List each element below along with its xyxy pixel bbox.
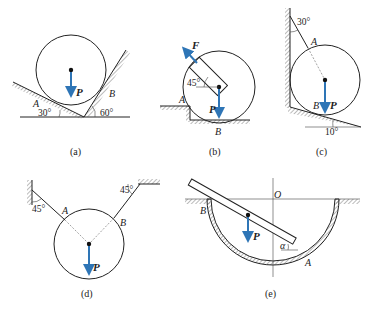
label-A: A bbox=[61, 205, 69, 216]
label-alpha: α bbox=[280, 240, 286, 251]
incline-surface bbox=[290, 107, 361, 127]
center-dot bbox=[69, 68, 73, 72]
ground-left-hatch bbox=[185, 199, 210, 204]
caption-e: (e) bbox=[265, 288, 276, 300]
force-F-arrow bbox=[186, 51, 197, 63]
label-P: P bbox=[93, 261, 100, 273]
right-rope-dashed bbox=[89, 218, 114, 244]
ceiling-hatch bbox=[138, 179, 160, 184]
angle-label-60: 60° bbox=[100, 108, 114, 118]
label-P: P bbox=[76, 86, 83, 98]
caption-c: (c) bbox=[316, 146, 327, 158]
label-P: P bbox=[253, 230, 260, 242]
angle-arc-30 bbox=[59, 110, 60, 117]
center-dot bbox=[323, 78, 327, 82]
angle-arc-30 bbox=[290, 30, 298, 32]
step-riser-hatch bbox=[186, 106, 190, 122]
panel-c: 30° A B P 10° (c) bbox=[285, 8, 361, 158]
angle-label-45: 45° bbox=[187, 78, 201, 88]
handle-bar bbox=[189, 57, 227, 95]
right-incline-hatch bbox=[84, 50, 130, 117]
left-rope-dashed bbox=[65, 220, 89, 244]
label-B: B bbox=[215, 126, 221, 137]
center-of-mass-dot bbox=[246, 213, 250, 217]
angle-label-10: 10° bbox=[325, 127, 339, 137]
label-B: B bbox=[200, 205, 206, 216]
label-B: B bbox=[313, 100, 319, 111]
caption-a: (a) bbox=[70, 146, 81, 158]
label-F: F bbox=[191, 39, 200, 51]
label-A: A bbox=[310, 36, 318, 47]
panel-a: P A B 30° 60° (a) bbox=[12, 35, 130, 158]
panel-d: 45° 45° A B P (d) bbox=[27, 179, 160, 300]
center-dot bbox=[87, 242, 91, 246]
angle-label-30: 30° bbox=[297, 17, 311, 27]
left-wall-hatch bbox=[27, 180, 32, 205]
rope-dashed bbox=[308, 48, 325, 80]
caption-d: (d) bbox=[81, 288, 93, 300]
label-B: B bbox=[120, 217, 126, 228]
angle-arc-left bbox=[32, 199, 41, 202]
panel-e: O B P α A (e) bbox=[185, 178, 360, 300]
ground-right-hatch bbox=[336, 199, 360, 204]
label-P: P bbox=[330, 99, 337, 111]
label-P: P bbox=[209, 103, 216, 115]
panel-b: F P 45° A B (b) bbox=[160, 39, 255, 158]
angle-label-left-45: 45° bbox=[32, 204, 46, 214]
label-A: A bbox=[178, 94, 186, 105]
label-O: O bbox=[274, 189, 281, 200]
caption-b: (b) bbox=[209, 146, 221, 158]
label-A: A bbox=[304, 257, 312, 268]
angle-label-30: 30° bbox=[38, 108, 52, 118]
label-B: B bbox=[109, 88, 115, 99]
wall-hatch bbox=[285, 8, 290, 108]
angle-label-right-45: 45° bbox=[120, 185, 134, 195]
upper-step-hatch bbox=[160, 106, 190, 110]
statics-diagram-figure: P A B 30° 60° (a) F P 45° A B (b) bbox=[0, 0, 374, 310]
